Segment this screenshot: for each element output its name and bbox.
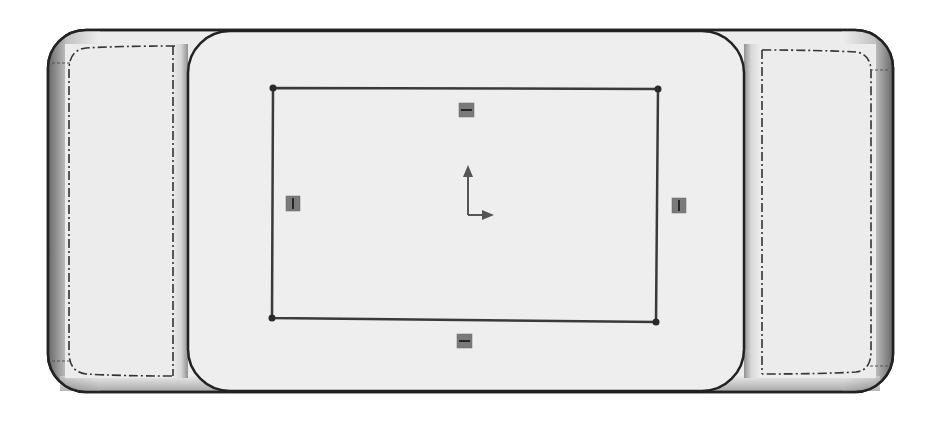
right-tab[interactable] (744, 44, 889, 378)
left-tab[interactable] (52, 44, 188, 378)
sketch-point[interactable] (653, 319, 660, 326)
vertical-constraint-icon[interactable] (672, 198, 686, 213)
sketch-canvas[interactable] (0, 0, 927, 425)
sketch-point[interactable] (655, 86, 662, 93)
vertical-constraint-icon[interactable] (286, 196, 300, 211)
horizontal-constraint-icon[interactable] (457, 334, 472, 348)
horizontal-constraint-icon[interactable] (459, 103, 474, 117)
cad-graphics-area[interactable] (0, 0, 927, 425)
sketch-point[interactable] (270, 85, 277, 92)
sketch-point[interactable] (269, 315, 276, 322)
